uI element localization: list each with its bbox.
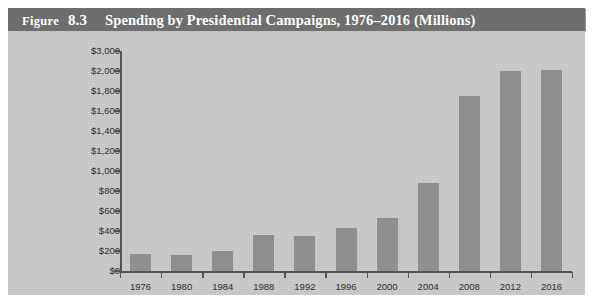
x-axis-tick-label: 2012 [490, 281, 530, 292]
figure-title: Spending by Presidential Campaigns, 1976… [105, 12, 475, 28]
y-axis-tick-mark [114, 110, 120, 111]
y-axis-labels: $3,000$2,000$1,800$1,600$1,400$1,200$1,0… [8, 31, 120, 295]
x-axis-tick-label: 1976 [121, 281, 161, 292]
y-axis-tick-mark [114, 230, 120, 231]
x-axis-tick-mark [120, 272, 121, 278]
y-axis-tick-label: $1,200 [64, 146, 120, 156]
x-axis-tick-mark [243, 272, 244, 278]
y-axis-tick-mark [114, 90, 120, 91]
x-axis-tick-label: 1984 [203, 281, 243, 292]
y-axis-tick-label: $3,000 [64, 46, 120, 56]
x-axis-tick-mark [325, 272, 326, 278]
bar [171, 255, 192, 271]
bar [377, 218, 398, 271]
y-axis-tick-mark [114, 50, 120, 51]
x-axis-tick-label: 1988 [244, 281, 284, 292]
y-axis-tick-mark [114, 70, 120, 71]
figure-number: 8.3 [68, 12, 87, 28]
x-axis-tick-mark [161, 272, 162, 278]
y-axis-tick-mark [114, 130, 120, 131]
x-axis-line [120, 271, 572, 273]
x-axis-tick-label: 2016 [531, 281, 571, 292]
y-axis-tick-label: $1,000 [64, 166, 120, 176]
y-axis-tick-label: $600 [64, 206, 120, 216]
x-axis-tick-label: 2008 [449, 281, 489, 292]
bar [459, 96, 480, 271]
x-axis-tick-mark [449, 272, 450, 278]
chart-panel: $3,000$2,000$1,800$1,600$1,400$1,200$1,0… [8, 31, 585, 295]
y-axis-tick-mark [114, 210, 120, 211]
y-axis-tick-label: $1,600 [64, 106, 120, 116]
x-axis-tick-label: 1992 [285, 281, 325, 292]
figure-title-bar: Figure8.3Spending by Presidential Campai… [8, 8, 585, 31]
bar [418, 183, 439, 271]
figure-container: Figure8.3Spending by Presidential Campai… [0, 0, 594, 304]
y-axis-tick-mark [114, 190, 120, 191]
y-axis-tick-label: $800 [64, 186, 120, 196]
x-axis-tick-mark [202, 272, 203, 278]
bar [212, 251, 233, 271]
y-axis-tick-label: $1,400 [64, 126, 120, 136]
y-axis-tick-label: $1,800 [64, 86, 120, 96]
y-axis-tick-mark [114, 150, 120, 151]
figure-title-text: Figure8.3Spending by Presidential Campai… [22, 10, 475, 31]
bar [336, 228, 357, 271]
bar [541, 70, 562, 271]
bar [500, 71, 521, 271]
y-axis-tick-label: $2,000 [64, 66, 120, 76]
x-axis-tick-mark [490, 272, 491, 278]
x-axis-tick-label: 2000 [367, 281, 407, 292]
x-axis-tick-label: 1996 [326, 281, 366, 292]
y-axis-tick-label: $0 [64, 266, 120, 276]
bar [253, 235, 274, 272]
y-axis-tick-mark [114, 170, 120, 171]
x-axis-tick-label: 1980 [162, 281, 202, 292]
x-axis-tick-label: 2004 [408, 281, 448, 292]
x-axis-tick-mark [572, 272, 573, 278]
y-axis-tick-label: $400 [64, 226, 120, 236]
bar [130, 254, 151, 271]
x-axis-tick-mark [367, 272, 368, 278]
y-axis-tick-label: $200 [64, 246, 120, 256]
bar [294, 236, 315, 272]
y-axis-tick-mark [114, 250, 120, 251]
x-axis-tick-mark [284, 272, 285, 278]
y-axis-line [120, 51, 122, 273]
x-axis-tick-mark [531, 272, 532, 278]
x-axis-tick-mark [408, 272, 409, 278]
figure-label-word: Figure [22, 14, 59, 28]
